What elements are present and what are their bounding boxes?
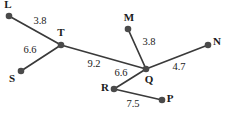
node-label-q: Q [145, 73, 154, 85]
edge-weight-m-q: 3.8 [142, 36, 155, 47]
edge-t-q [61, 45, 146, 69]
edge-weight-t-q: 9.2 [87, 58, 100, 69]
node-label-m: M [124, 11, 135, 23]
node-label-r: R [101, 81, 110, 93]
node-m [125, 26, 132, 33]
graph-diagram: 3.86.69.23.84.76.67.5 LTSMQNRP [0, 0, 236, 122]
node-r [111, 86, 118, 93]
node-q [143, 66, 150, 73]
node-label-l: L [4, 0, 11, 10]
edge-weight-q-n: 4.7 [172, 61, 185, 72]
node-label-s: S [9, 72, 15, 84]
node-s [18, 68, 25, 75]
edge-weight-q-r: 6.6 [114, 67, 127, 78]
graph-canvas: 3.86.69.23.84.76.67.5 LTSMQNRP [0, 0, 236, 122]
edge-weight-s-t: 6.6 [23, 44, 36, 55]
edge-weight-l-t: 3.8 [33, 15, 46, 26]
node-label-p: P [167, 92, 174, 104]
node-p [159, 97, 166, 104]
edge-weight-r-p: 7.5 [126, 98, 139, 109]
node-label-t: T [57, 26, 65, 38]
node-n [205, 42, 212, 49]
edge-m-q [128, 29, 146, 69]
node-l [6, 13, 13, 20]
node-label-n: N [213, 35, 221, 47]
node-t [58, 42, 65, 49]
